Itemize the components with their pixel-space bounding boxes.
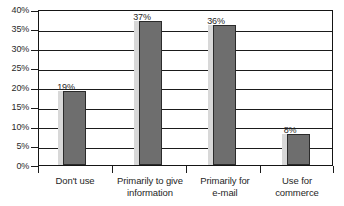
bar-value-label: 37%	[120, 13, 164, 22]
bar-chart: 40% 35% 30% 25% 20% 15% 10% 5% 0%	[0, 0, 344, 206]
bar[interactable]	[139, 21, 162, 165]
bar-group	[213, 25, 236, 165]
gridline	[39, 50, 332, 51]
y-axis-tick-label: 40%	[0, 6, 29, 15]
bar[interactable]	[63, 91, 86, 165]
bar-group	[287, 134, 310, 165]
x-axis-tick	[112, 166, 113, 173]
bar-value-label: 8%	[268, 126, 312, 135]
y-axis-tick-label: 20%	[0, 84, 29, 93]
bar-value-label: 36%	[194, 17, 238, 26]
y-axis-tick-label: 30%	[0, 45, 29, 54]
x-axis-category-label: Use for commerce	[254, 175, 340, 198]
bar[interactable]	[213, 25, 236, 165]
gridline	[39, 31, 332, 32]
bar-value-label: 19%	[44, 83, 88, 92]
y-axis-tick-label: 35%	[0, 25, 29, 34]
bar[interactable]	[287, 134, 310, 165]
bar-group	[139, 21, 162, 165]
x-axis-tick	[38, 166, 39, 173]
gridline	[39, 70, 332, 71]
y-axis-tick-label: 15%	[0, 103, 29, 112]
x-axis-tick	[260, 166, 261, 173]
bar-group	[63, 91, 86, 165]
x-axis-tick	[186, 166, 187, 173]
x-axis-category-line: Use for	[254, 175, 340, 187]
y-axis-tick-label: 10%	[0, 123, 29, 132]
x-axis-category-line: commerce	[254, 187, 340, 199]
y-axis-tick-label: 0%	[0, 162, 29, 171]
y-axis-tick-label: 5%	[0, 142, 29, 151]
x-axis-tick	[333, 166, 334, 173]
y-axis-tick-label: 25%	[0, 64, 29, 73]
